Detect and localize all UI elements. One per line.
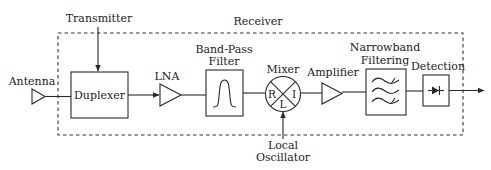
lo-label-line2: Oscillator (256, 151, 311, 164)
mixer-port-i: I (292, 88, 296, 100)
lna-amplifier-icon (160, 84, 181, 106)
amplifier-icon (322, 83, 342, 104)
receiver-label: Receiver (234, 15, 284, 28)
mixer-label: Mixer (267, 63, 300, 76)
narrowband-label-line2: Filtering (361, 54, 410, 67)
mixer-port-r: R (268, 88, 277, 100)
antenna-label: Antenna (8, 75, 56, 88)
receiver-block-diagram: Receiver Transmitter Antenna Duplexer LN… (0, 0, 491, 170)
duplexer-label: Duplexer (74, 89, 126, 102)
detection-label: Detection (411, 60, 465, 73)
transmitter-label: Transmitter (66, 12, 133, 25)
amplifier-label: Amplifier (306, 66, 359, 79)
mixer-port-l: L (280, 98, 287, 110)
bpf-label-line2: Filter (209, 55, 241, 68)
lna-label: LNA (155, 70, 181, 83)
narrowband-label-line1: Narrowband (350, 41, 420, 54)
antenna-icon (32, 89, 45, 104)
bandpass-filter-block (206, 70, 243, 116)
